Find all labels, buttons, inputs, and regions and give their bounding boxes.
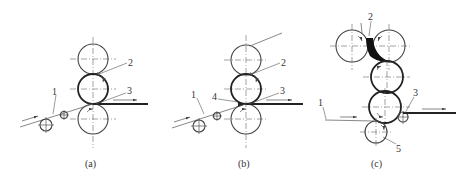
caption-a: (a): [85, 158, 96, 170]
label-2: 2: [128, 57, 133, 68]
coating-material: [366, 38, 388, 61]
label-5: 5: [396, 143, 401, 154]
feed-arrow-icon: [22, 116, 38, 121]
label-2: 2: [368, 11, 373, 22]
label-2: 2: [281, 57, 286, 68]
panel-c: 2 3 1 5 (c): [318, 11, 456, 170]
incoming-web: [20, 104, 93, 127]
label-1: 1: [52, 86, 57, 97]
caption-c: (c): [371, 158, 382, 170]
panel-b: 2 3 4 1 (b): [172, 33, 303, 170]
panel-a: 2 3 1 (a): [20, 37, 148, 170]
label-3: 3: [280, 85, 285, 96]
label-1: 1: [318, 97, 323, 108]
roll-coating-diagram: 2 3 1 (a) 2 3: [0, 0, 470, 181]
rotation-arrow-icon: [240, 109, 246, 112]
label-3: 3: [413, 87, 418, 98]
label-4: 4: [212, 91, 217, 102]
label-3: 3: [127, 85, 132, 96]
label-1: 1: [191, 89, 196, 100]
caption-b: (b): [238, 158, 250, 170]
rotation-arrow-icon: [87, 109, 93, 112]
